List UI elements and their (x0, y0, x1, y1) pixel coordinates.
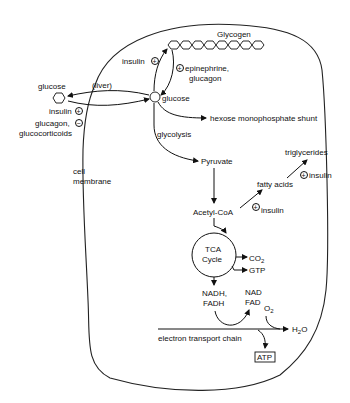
acetyl-coa-label: Acetyl-CoA (193, 208, 234, 217)
metabolism-diagram: Glycogen glucose insulin + + epinephrine… (0, 0, 350, 403)
etc-label: electron transport chain (158, 334, 242, 343)
glycogenesis-arrow (154, 49, 167, 91)
co2-label: CO2 (249, 254, 265, 264)
gtp-arrow (232, 266, 247, 270)
plus-symbol: + (254, 204, 258, 211)
insulin-fatty-label: insulin (309, 171, 332, 180)
glucagon-inhibit-label: glucagon, (35, 119, 70, 128)
glucocorticoids-label: glucocorticoids (19, 129, 72, 138)
glucose-hexagon-icon (53, 93, 65, 103)
h2o-label: H2O (292, 325, 307, 335)
glycolysis-label: glycolysis (157, 130, 191, 139)
nadh-oxidation-arrow (215, 310, 249, 325)
glucose-outside-label: glucose (38, 82, 66, 91)
o2-label: O2 (264, 304, 274, 314)
hms-arrow (158, 102, 206, 118)
fad-label-text: FAD (245, 298, 261, 307)
atp-arrow (258, 330, 265, 348)
insulin-acetyl-label: insulin (261, 206, 284, 215)
plus-symbol: + (153, 58, 157, 65)
glucose-inside-label: glucose (162, 94, 190, 103)
glucagon-label: glucagon (189, 74, 221, 83)
o2-to-h2o-arrow (266, 316, 280, 329)
liver-label: (liver) (92, 81, 112, 90)
insulin-uptake-label: insulin (49, 107, 72, 116)
fadh-label: FADH (203, 299, 225, 308)
plus-symbol: + (302, 172, 306, 179)
plus-symbol: + (77, 108, 81, 115)
plus-symbol: + (178, 65, 182, 72)
glycogen-chain-icon (168, 41, 264, 49)
atp-label: ATP (257, 353, 272, 362)
glycogenolysis-arrow (161, 50, 174, 95)
insulin-glycogen-label: insulin (122, 57, 145, 66)
triglycerides-label: triglycerides (285, 148, 328, 157)
membrane-label-1: cell (73, 167, 85, 176)
nad-label: NAD (245, 288, 262, 297)
pyruvate-label: Pyruvate (201, 157, 233, 166)
tca-label-1: TCA (205, 245, 222, 254)
membrane-label-2: membrane (73, 177, 112, 186)
glucose-export-arrow (68, 91, 149, 96)
glucose-center-icon (150, 92, 160, 102)
tca-label-2: Cycle (202, 255, 223, 264)
fatty-acids-label: fatty acids (257, 180, 293, 189)
gtp-label: GTP (249, 266, 265, 275)
acetylcoa-to-tca-arrow (214, 218, 226, 233)
glycogen-label: Glycogen (217, 30, 251, 39)
epinephrine-label: epinephrine, (185, 64, 229, 73)
nadh-label: NADH, (202, 289, 227, 298)
hms-label: hexose monophosphate shunt (210, 114, 318, 123)
minus-symbol: − (76, 120, 80, 127)
glucose-uptake-arrow (68, 99, 149, 105)
